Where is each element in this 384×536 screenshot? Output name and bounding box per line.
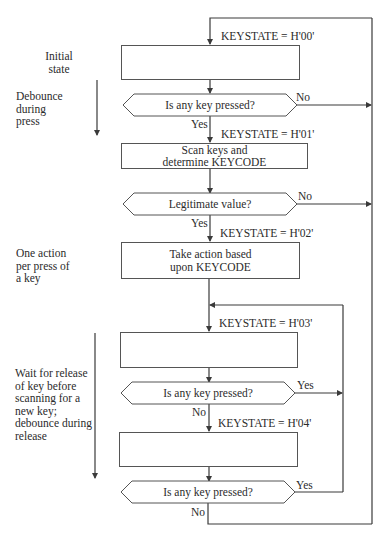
note-one-action: One action per press of a key	[16, 247, 70, 285]
decision-3-question: Is any key pressed?	[121, 387, 295, 399]
box-line: upon KEYCODE	[169, 261, 251, 274]
note-initial-state: Initial state	[36, 50, 82, 75]
note-line: release	[15, 430, 92, 443]
decision-3-yes-label: Yes	[297, 379, 314, 392]
note-line: One action	[16, 247, 70, 260]
note-line: during	[16, 103, 63, 116]
note-line: new key;	[15, 405, 92, 418]
note-line: of key before	[15, 380, 92, 393]
process-box-scan-keys: Scan keys and determine KEYCODE	[121, 143, 308, 169]
state-label-02: KEYSTATE = H'02'	[220, 227, 313, 240]
note-line: press	[16, 115, 63, 128]
decision-2-question: Legitimate value?	[123, 198, 297, 210]
decision-4-question: Is any key pressed?	[121, 486, 295, 498]
state-label-03: KEYSTATE = H'03'	[219, 317, 312, 330]
decision-1-question: Is any key pressed?	[123, 99, 297, 111]
state-label-00: KEYSTATE = H'00'	[221, 30, 314, 43]
state-label-01: KEYSTATE = H'01'	[221, 128, 314, 141]
box-line: Scan keys and	[163, 144, 267, 157]
d4-no-branch	[208, 503, 372, 524]
box-line: Take action based	[169, 248, 251, 261]
note-line: debounce during	[15, 417, 92, 430]
process-box-state-04	[119, 432, 298, 467]
note-line: scanning for a	[15, 392, 92, 405]
state-label-04: KEYSTATE = H'04'	[218, 417, 311, 430]
decision-3-no-label: No	[192, 406, 206, 419]
note-debounce-press: Debounce during press	[16, 90, 63, 128]
note-line: per press of	[16, 260, 70, 273]
decision-2-no-label: No	[298, 190, 312, 203]
process-box-state-03	[120, 332, 298, 368]
note-wait-release: Wait for release of key before scanning …	[15, 367, 92, 442]
process-box-take-action: Take action based upon KEYCODE	[121, 242, 300, 279]
note-line: a key	[16, 272, 70, 285]
process-box-initial	[121, 45, 300, 80]
decision-1-yes-label: Yes	[191, 118, 208, 131]
box-line: determine KEYCODE	[163, 156, 267, 169]
decision-2-yes-label: Yes	[191, 217, 208, 230]
note-line: Debounce	[16, 90, 63, 103]
decision-4-no-label: No	[191, 506, 205, 519]
note-line: Initial	[36, 50, 82, 63]
note-line: state	[36, 63, 82, 76]
note-line: Wait for release	[15, 367, 92, 380]
decision-4-yes-label: Yes	[296, 479, 313, 492]
decision-1-no-label: No	[296, 91, 310, 104]
